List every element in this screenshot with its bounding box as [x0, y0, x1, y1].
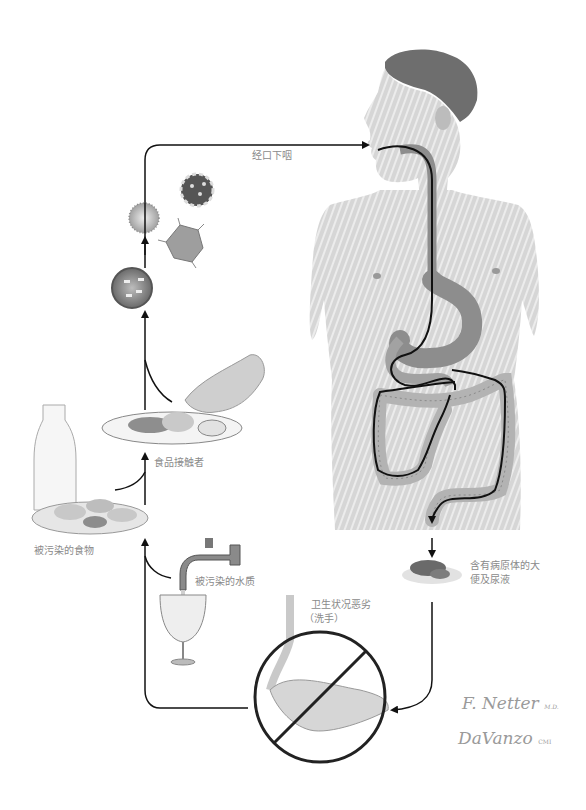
virus-icon-spiky [129, 203, 159, 233]
signature-netter-suffix: M.D. [544, 703, 559, 710]
feces-illustration [402, 560, 462, 584]
virus-icon-dark [181, 174, 213, 206]
label-contaminated-food: 被污染的食物 [34, 544, 94, 558]
virus-icon-large [112, 268, 152, 308]
signature-netter: F. Netter M.D. [462, 693, 559, 713]
signature-davanzo-name: DaVanzo [458, 728, 533, 748]
transmission-diagram: 经口下咽 食品接触者 被污染的食物 被污染的水质 含有病原体的大 便及尿液 卫生… [0, 0, 586, 810]
signature-davanzo-suffix: CMI [538, 738, 551, 745]
signature-davanzo: DaVanzo CMI [458, 728, 551, 748]
label-poor-hygiene-line1: 卫生状况恶劣 [311, 598, 371, 612]
label-poor-hygiene-line2: （洗手） [304, 612, 344, 626]
diagram-graphics [0, 0, 586, 810]
signature-netter-name: F. Netter [462, 693, 539, 713]
contaminated-water-illustration [160, 538, 240, 665]
label-feces-line1: 含有病原体的大 [470, 559, 540, 573]
label-oral-ingestion: 经口下咽 [252, 149, 292, 163]
virus-icon-icosahedral [158, 218, 204, 268]
label-food-handler: 食品接触者 [154, 456, 204, 470]
label-feces-line2: 便及尿液 [470, 573, 510, 587]
food-handler-illustration [102, 355, 264, 444]
label-contaminated-water: 被污染的水质 [195, 575, 255, 589]
pathogen-cluster [112, 174, 213, 308]
